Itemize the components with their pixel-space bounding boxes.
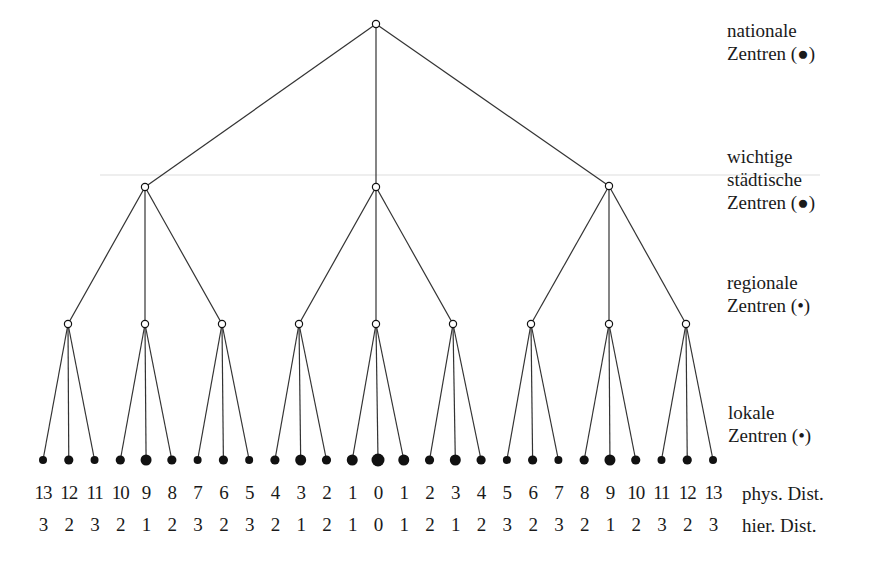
city-center-node xyxy=(141,183,148,190)
hier-distance-value: 3 xyxy=(236,514,262,536)
city-center-node xyxy=(605,182,612,189)
local-center-node xyxy=(554,456,562,464)
local-center-node xyxy=(219,455,228,464)
level-label-local: lokale Zentren (•) xyxy=(728,401,811,447)
level-label-regional: regionale Zentren (•) xyxy=(727,271,810,317)
hier-distance-value: 2 xyxy=(159,514,185,536)
tree-edge xyxy=(661,324,686,460)
tree-edge xyxy=(376,324,404,460)
hier-distance-value: 2 xyxy=(417,514,443,536)
phys-distance-value: 4 xyxy=(468,482,494,504)
label-line: nationale xyxy=(727,19,815,42)
hier-distance-value: 2 xyxy=(674,514,700,536)
tree-edge xyxy=(299,187,376,324)
phys-distance-value: 13 xyxy=(700,482,726,504)
phys-distance-value: 3 xyxy=(288,482,314,504)
regional-center-node xyxy=(218,320,225,327)
local-center-node xyxy=(322,455,331,464)
tree-edge xyxy=(145,24,376,187)
local-center-node xyxy=(116,455,125,464)
local-center-node xyxy=(372,454,385,467)
hier-distance-value: 2 xyxy=(571,514,597,536)
phys-distance-value: 8 xyxy=(571,482,597,504)
level-label-national: nationale Zentren (●) xyxy=(727,19,815,65)
local-center-node xyxy=(476,455,485,464)
local-center-node xyxy=(347,455,358,466)
tree-edge xyxy=(275,324,299,460)
local-center-node xyxy=(425,455,434,464)
hier-distance-value: 2 xyxy=(56,514,82,536)
hier-distance-value: 3 xyxy=(82,514,108,536)
phys-distance-value: 4 xyxy=(262,482,288,504)
tree-edge xyxy=(609,324,636,460)
central-place-hierarchy-diagram: nationale Zentren (●) wichtige städtisch… xyxy=(0,0,886,566)
level-label-city: wichtige städtische Zentren (●) xyxy=(727,145,815,214)
tree-edge xyxy=(198,324,222,460)
phys-distance-value: 7 xyxy=(545,482,571,504)
national-center-node xyxy=(372,20,379,27)
tree-edge xyxy=(453,324,455,460)
phys-distance-value: 3 xyxy=(442,482,468,504)
local-center-node xyxy=(64,455,73,464)
hier-distance-value: 1 xyxy=(133,514,159,536)
local-center-node xyxy=(194,456,202,464)
tree-edge xyxy=(376,187,453,324)
tree-edge xyxy=(430,324,453,460)
local-center-node xyxy=(270,455,279,464)
tree-edge xyxy=(222,324,249,460)
regional-center-node xyxy=(295,320,302,327)
phys-distance-value: 6 xyxy=(210,482,236,504)
tree-edge xyxy=(299,324,326,460)
tree-edge xyxy=(299,324,301,460)
tree-edge xyxy=(68,324,69,460)
phys-distance-value: 11 xyxy=(82,482,108,504)
hier-distance-value: 2 xyxy=(210,514,236,536)
local-center-node xyxy=(657,456,665,464)
label-line: städtische xyxy=(727,168,815,191)
phys-distance-value: 12 xyxy=(674,482,700,504)
phys-distance-value: 10 xyxy=(107,482,133,504)
tree-edge xyxy=(507,324,531,460)
label-line: lokale xyxy=(728,401,811,424)
hier-distance-value: 2 xyxy=(313,514,339,536)
tree-edge xyxy=(376,24,609,186)
hier-distance-value: 3 xyxy=(648,514,674,536)
hier-distance-value: 2 xyxy=(623,514,649,536)
tree-edge xyxy=(68,187,145,324)
tree-edge xyxy=(531,186,609,324)
hier-distance-value: 2 xyxy=(107,514,133,536)
hier-distance-value: 1 xyxy=(391,514,417,536)
hier-distance-value: 3 xyxy=(700,514,726,536)
local-center-node xyxy=(245,456,253,464)
tree-edge xyxy=(352,324,376,460)
phys-distance-value: 7 xyxy=(185,482,211,504)
tree-edge xyxy=(43,324,68,460)
hier-distance-value: 3 xyxy=(185,514,211,536)
local-center-node xyxy=(39,456,47,464)
phys-distance-value: 2 xyxy=(417,482,443,504)
regional-center-node xyxy=(605,320,612,327)
phys-distance-value: 2 xyxy=(313,482,339,504)
hier-distance-value: 0 xyxy=(365,514,391,536)
local-center-node xyxy=(398,455,409,466)
hier-distance-value: 1 xyxy=(442,514,468,536)
label-line: Zentren (●) xyxy=(727,42,815,65)
phys-distance-value: 1 xyxy=(391,482,417,504)
tree-edge xyxy=(453,324,481,460)
hier-distance-value: 3 xyxy=(30,514,56,536)
tree-edge xyxy=(376,324,378,460)
phys-distance-value: 13 xyxy=(30,482,56,504)
hier-distance-value: 3 xyxy=(494,514,520,536)
regional-center-node xyxy=(372,320,379,327)
tree-edge xyxy=(686,324,687,460)
phys-distance-value: 5 xyxy=(236,482,262,504)
regional-center-node xyxy=(449,320,456,327)
local-center-node xyxy=(91,456,99,464)
label-line: Zentren (●) xyxy=(727,191,815,214)
tree-edge xyxy=(68,324,95,460)
phys-distance-value: 5 xyxy=(494,482,520,504)
phys-distance-value: 10 xyxy=(623,482,649,504)
phys-distance-value: 9 xyxy=(133,482,159,504)
tree-edge xyxy=(609,186,686,324)
local-center-node xyxy=(631,455,640,464)
